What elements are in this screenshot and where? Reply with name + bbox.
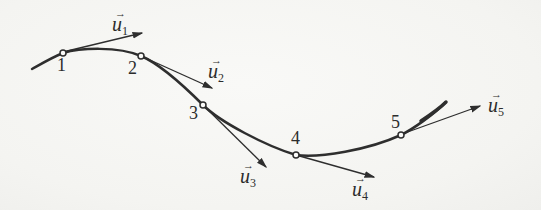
vector-symbol: u xyxy=(240,165,250,187)
point-label-2: 2 xyxy=(128,61,137,76)
vector-symbol: u xyxy=(112,13,122,35)
vector-arrow-u5 xyxy=(402,106,480,134)
point-label-5: 5 xyxy=(391,115,400,130)
vector-subscript: 3 xyxy=(250,176,256,190)
diagram-canvas: 1 2 3 4 5 → u1 → u2 → u3 → u4 → u5 xyxy=(0,0,541,210)
vector-label-u5: → u5 xyxy=(488,90,504,118)
point-label-4: 4 xyxy=(291,131,300,146)
vector-subscript: 4 xyxy=(362,189,368,203)
trajectory-curve-end xyxy=(421,102,446,121)
vector-label-u4: → u4 xyxy=(352,174,368,202)
vector-label-u2: → u2 xyxy=(208,56,224,84)
point-marker-3 xyxy=(200,102,206,108)
point-marker-4 xyxy=(293,152,299,158)
vector-symbol: u xyxy=(208,60,218,82)
vector-arrow-u3 xyxy=(203,105,266,167)
vector-subscript: 2 xyxy=(218,71,224,85)
point-marker-5 xyxy=(398,132,404,138)
vector-label-u1: → u1 xyxy=(112,9,128,37)
vector-label-u3: → u3 xyxy=(240,161,256,189)
vector-subscript: 1 xyxy=(122,24,128,38)
vector-symbol: u xyxy=(352,178,362,200)
point-label-1: 1 xyxy=(57,58,66,73)
vector-arrow-u2 xyxy=(141,56,212,88)
curve-vectors-svg xyxy=(0,0,541,210)
point-label-3: 3 xyxy=(189,106,198,121)
vector-subscript: 5 xyxy=(498,105,504,119)
vector-symbol: u xyxy=(488,94,498,116)
point-marker-2 xyxy=(138,53,144,59)
